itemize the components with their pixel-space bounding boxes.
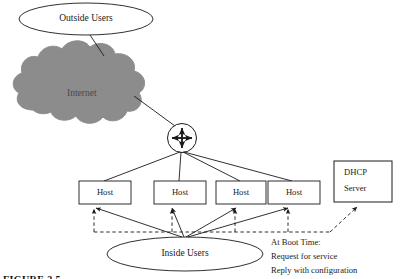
- edge-internet-to-router: [134, 96, 175, 126]
- outside-users-label: Outside Users: [44, 14, 128, 24]
- network-diagram: Outside Users Internet Host Host Host Ho…: [0, 0, 409, 279]
- host-label-4: Host: [268, 188, 320, 197]
- inside-users-to-hosts-edges: [96, 208, 288, 237]
- diagram-canvas: [0, 0, 409, 279]
- dhcp-server-label-line1: DHCP: [344, 168, 367, 177]
- router-to-hosts-edges: [104, 152, 292, 181]
- router-node: [168, 124, 197, 153]
- figure-caption: FIGURE 2.5: [3, 274, 61, 279]
- annotation-line-2: Request for service: [271, 252, 337, 261]
- internet-cloud-shape: [13, 41, 144, 123]
- internet-label: Internet: [67, 89, 97, 99]
- host-label-2: Host: [154, 188, 206, 197]
- host-label-3: Host: [216, 188, 266, 197]
- dhcp-server-label-line2: Server: [344, 184, 366, 193]
- annotation-line-3: Reply with configuration: [271, 266, 357, 275]
- annotation-line-1: At Boot Time:: [271, 238, 321, 247]
- inside-users-label: Inside Users: [143, 249, 227, 259]
- dhcp-dashed-bus: [94, 207, 357, 232]
- host-label-1: Host: [79, 188, 131, 197]
